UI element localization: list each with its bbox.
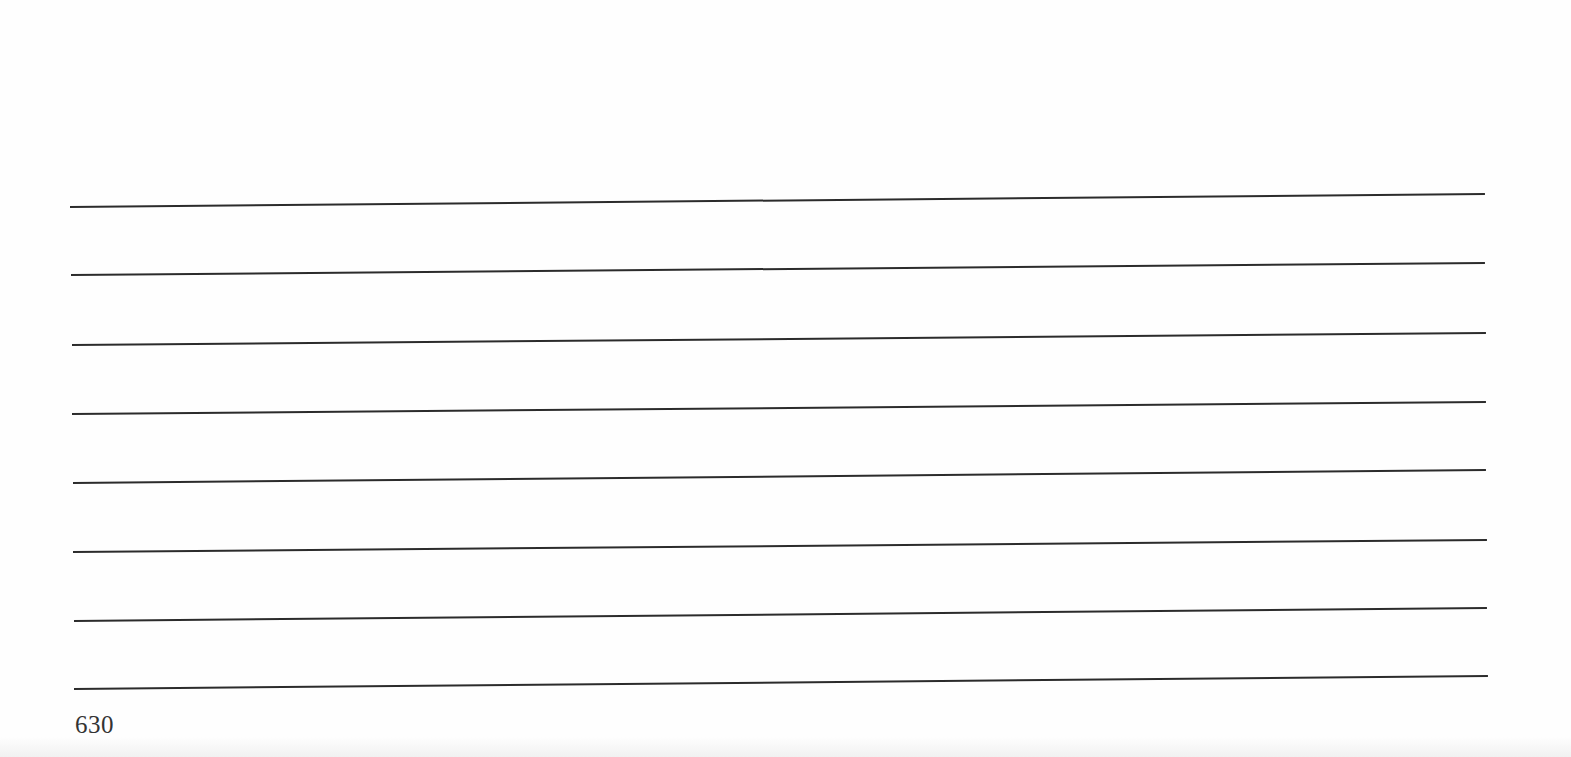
writing-line: [73, 469, 1486, 484]
writing-line: [74, 675, 1488, 690]
writing-line: [72, 401, 1486, 415]
writing-line: [71, 262, 1485, 276]
page-number: 630: [75, 711, 114, 739]
writing-line: [74, 607, 1487, 622]
writing-line: [72, 332, 1486, 346]
writing-line: [73, 539, 1487, 553]
scan-edge-shadow: [0, 737, 1571, 757]
lined-page: 630: [0, 0, 1571, 757]
writing-line: [70, 193, 1485, 208]
